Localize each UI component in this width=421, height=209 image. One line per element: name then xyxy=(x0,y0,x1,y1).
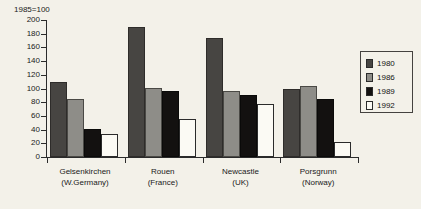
y-tick-label-wrap: 120 xyxy=(14,71,40,79)
legend-swatch-icon xyxy=(366,87,373,96)
bar xyxy=(50,82,67,157)
bar xyxy=(283,89,300,157)
y-tick-label-wrap: 200 xyxy=(14,16,40,24)
x-tick xyxy=(358,157,359,163)
y-tick-label-wrap: 40 xyxy=(14,126,40,134)
y-tick-label: 20 xyxy=(16,139,40,147)
category-label-line: Gelsenkirchen xyxy=(41,166,129,177)
legend-swatch-icon xyxy=(366,59,373,68)
y-tick-label-wrap: 180 xyxy=(14,30,40,38)
y-tick-label-wrap: 140 xyxy=(14,57,40,65)
category-label: Newcastle(UK) xyxy=(197,166,285,188)
category-label: Gelsenkirchen(W.Germany) xyxy=(41,166,129,188)
bar xyxy=(334,142,351,157)
y-tick-label: 100 xyxy=(16,85,40,93)
y-tick-label: 140 xyxy=(16,57,40,65)
legend-item[interactable]: 1980 xyxy=(366,56,412,70)
y-tick-label: 80 xyxy=(16,98,40,106)
bar xyxy=(257,104,274,157)
bar xyxy=(162,91,179,157)
bar xyxy=(145,88,162,157)
bar-group xyxy=(283,20,351,157)
x-tick xyxy=(280,157,281,163)
category-label-line: (UK) xyxy=(197,177,285,188)
bar xyxy=(101,134,118,157)
y-tick-label: 160 xyxy=(16,43,40,51)
bar xyxy=(317,99,334,157)
bar xyxy=(300,86,317,157)
category-label-line: (Norway) xyxy=(274,177,362,188)
bar xyxy=(223,91,240,157)
legend-item[interactable]: 1986 xyxy=(366,70,412,84)
bar xyxy=(67,99,84,157)
bar-group xyxy=(50,20,118,157)
category-label: Rouen(France) xyxy=(119,166,207,188)
x-tick xyxy=(47,157,48,163)
y-tick-label-wrap: 80 xyxy=(14,98,40,106)
bar xyxy=(206,38,223,157)
category-label-line: (France) xyxy=(119,177,207,188)
y-tick-label-wrap: 20 xyxy=(14,139,40,147)
y-tick-label-wrap: 100 xyxy=(14,85,40,93)
legend-label: 1986 xyxy=(377,73,395,82)
legend-label: 1980 xyxy=(377,59,395,68)
legend-label: 1989 xyxy=(377,87,395,96)
category-label-line: Rouen xyxy=(119,166,207,177)
chart-title: 1985=100 xyxy=(14,5,50,14)
legend: 1980198619891992 xyxy=(360,51,413,113)
bar-group xyxy=(128,20,196,157)
bar xyxy=(240,95,257,157)
legend-item[interactable]: 1992 xyxy=(366,98,412,112)
y-tick-label: 40 xyxy=(16,126,40,134)
y-tick-label: 0 xyxy=(16,153,40,161)
legend-swatch-icon xyxy=(366,73,373,82)
bar xyxy=(84,129,101,157)
y-tick-label-wrap: 0 xyxy=(14,153,40,161)
x-tick xyxy=(125,157,126,163)
bar xyxy=(128,27,145,157)
legend-swatch-icon xyxy=(366,101,373,110)
y-tick-label-wrap: 160 xyxy=(14,43,40,51)
category-label-line: Newcastle xyxy=(197,166,285,177)
y-tick-label: 60 xyxy=(16,112,40,120)
x-tick xyxy=(203,157,204,163)
y-tick-label: 120 xyxy=(16,71,40,79)
category-label-line: Porsgrunn xyxy=(274,166,362,177)
y-tick-label: 180 xyxy=(16,30,40,38)
category-label: Porsgrunn(Norway) xyxy=(274,166,362,188)
bar-group xyxy=(206,20,274,157)
y-tick-label-wrap: 60 xyxy=(14,112,40,120)
legend-item[interactable]: 1989 xyxy=(366,84,412,98)
y-tick-label: 200 xyxy=(16,16,40,24)
legend-label: 1992 xyxy=(377,101,395,110)
category-label-line: (W.Germany) xyxy=(41,177,129,188)
bar xyxy=(179,119,196,157)
chart-container: 1985=100 020406080100120140160180200 Gel… xyxy=(0,0,421,209)
